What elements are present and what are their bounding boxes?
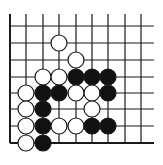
black-stone — [35, 135, 51, 151]
white-stone — [51, 118, 67, 134]
white-stone — [68, 85, 84, 101]
black-stone — [100, 69, 116, 85]
white-stone — [84, 85, 100, 101]
black-stone — [84, 118, 100, 134]
white-stone — [18, 85, 34, 101]
white-stone — [18, 118, 34, 134]
black-stone — [35, 85, 51, 101]
black-stone — [51, 85, 67, 101]
stones-layer — [18, 35, 116, 151]
black-stone — [84, 69, 100, 85]
white-stone — [84, 101, 100, 117]
white-stone — [18, 101, 34, 117]
black-stone — [35, 118, 51, 134]
white-stone — [18, 135, 34, 151]
black-stone — [100, 85, 116, 101]
black-stone — [68, 69, 84, 85]
go-board-diagram — [0, 0, 163, 165]
white-stone — [35, 69, 51, 85]
black-stone — [100, 118, 116, 134]
white-stone — [68, 118, 84, 134]
white-stone — [51, 35, 67, 51]
white-stone — [51, 69, 67, 85]
white-stone — [68, 52, 84, 68]
black-stone — [35, 101, 51, 117]
